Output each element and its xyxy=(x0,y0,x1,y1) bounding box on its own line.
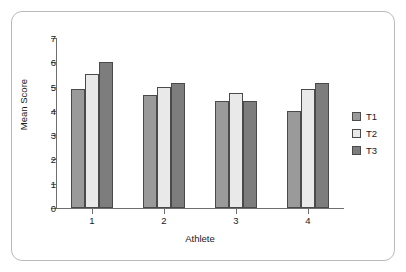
x-tick-mark xyxy=(308,209,309,214)
bar-T1-athlete-2 xyxy=(143,95,157,208)
y-tick-label: 7 xyxy=(26,34,56,44)
legend-item-T2[interactable]: T2 xyxy=(352,125,398,142)
legend-swatch-icon xyxy=(352,129,361,138)
legend-item-T3[interactable]: T3 xyxy=(352,142,398,159)
y-tick-label: 4 xyxy=(26,107,56,117)
legend-swatch-icon xyxy=(352,146,361,155)
plot-area: 01234567 1234 Athlete Mean Score T1T2T3 xyxy=(0,0,406,272)
bar-T3-athlete-1 xyxy=(99,62,113,208)
bar-T1-athlete-4 xyxy=(287,111,301,208)
y-tick-label: 5 xyxy=(26,83,56,93)
bar-T2-athlete-3 xyxy=(229,93,243,208)
bar-T1-athlete-1 xyxy=(71,89,85,208)
legend-label: T1 xyxy=(366,112,377,122)
y-axis-title: Mean Score xyxy=(18,60,29,150)
y-tick-label: 3 xyxy=(26,131,56,141)
bar-T3-athlete-4 xyxy=(315,83,329,208)
y-tick-label: 2 xyxy=(26,155,56,165)
legend-swatch-icon xyxy=(352,112,361,121)
bar-T2-athlete-2 xyxy=(157,87,171,208)
bar-T2-athlete-4 xyxy=(301,89,315,208)
chart-figure: 01234567 1234 Athlete Mean Score T1T2T3 xyxy=(0,0,406,272)
x-axis-title: Athlete xyxy=(56,233,344,244)
x-tick-mark xyxy=(236,209,237,214)
y-tick-label: 1 xyxy=(26,180,56,190)
y-tick-label: 0 xyxy=(26,204,56,214)
legend-item-T1[interactable]: T1 xyxy=(352,108,398,125)
bars-container xyxy=(56,38,344,208)
x-tick-mark xyxy=(164,209,165,214)
x-tick-label: 1 xyxy=(72,216,112,226)
x-tick-label: 4 xyxy=(288,216,328,226)
legend-label: T3 xyxy=(366,146,377,156)
x-axis-line xyxy=(56,208,344,209)
bar-T3-athlete-2 xyxy=(171,83,185,208)
x-tick-label: 3 xyxy=(216,216,256,226)
bar-T1-athlete-3 xyxy=(215,101,229,208)
bar-T2-athlete-1 xyxy=(85,74,99,208)
x-tick-mark xyxy=(92,209,93,214)
bar-T3-athlete-3 xyxy=(243,101,257,208)
legend-label: T2 xyxy=(366,129,377,139)
x-tick-label: 2 xyxy=(144,216,184,226)
y-tick-label: 6 xyxy=(26,58,56,68)
chart-legend: T1T2T3 xyxy=(352,108,398,159)
